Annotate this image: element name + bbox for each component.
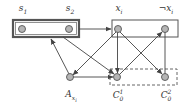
edge-a-to-sbox	[51, 39, 69, 74]
label-s1-sub: 1	[23, 8, 27, 15]
label-xi-sub: i	[121, 8, 123, 15]
diagram-canvas	[0, 0, 185, 103]
node-c0-1	[114, 74, 121, 81]
node-a-xi	[67, 74, 74, 81]
label-c0-1-text: C	[113, 90, 120, 100]
label-s2-sub: 2	[70, 8, 74, 15]
label-s2: s2	[66, 4, 74, 15]
label-c0-2-sub: 0	[167, 95, 171, 102]
label-not-xi: ¬xi	[159, 4, 174, 15]
label-s1: s1	[19, 4, 27, 15]
label-c0-1-sub: 0	[119, 95, 123, 102]
label-c0-2-text: C	[161, 90, 168, 100]
node-s2	[66, 26, 73, 33]
node-xi	[115, 26, 122, 33]
label-c0-2-sup: 2	[168, 88, 172, 95]
nodes	[19, 26, 169, 81]
node-not-xi	[162, 26, 169, 33]
label-not-xi-text: ¬x	[159, 3, 172, 13]
label-a-xi: Axi	[65, 90, 77, 103]
label-xi: xi	[116, 4, 123, 15]
label-a-xi-subsub: i	[75, 97, 77, 103]
node-s1	[19, 26, 26, 33]
node-c0-2	[162, 74, 169, 81]
label-not-xi-sub: i	[171, 8, 173, 15]
label-c0-1-sup: 1	[120, 88, 124, 95]
label-c0-2: C20	[161, 89, 172, 102]
edge-sbox-to-c01	[63, 37, 114, 74]
label-c0-1: C10	[113, 89, 124, 102]
